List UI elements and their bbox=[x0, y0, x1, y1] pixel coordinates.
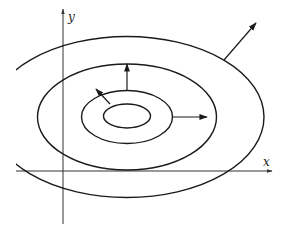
axes bbox=[16, 9, 272, 224]
contour-lines bbox=[0, 37, 264, 198]
contour-diagram: x y bbox=[0, 0, 283, 236]
x-axis-label: x bbox=[263, 155, 270, 169]
y-axis-label: y bbox=[67, 10, 75, 24]
arrow-outer-icon bbox=[224, 23, 256, 60]
contour-1 bbox=[104, 104, 151, 128]
contour-4 bbox=[0, 37, 264, 198]
contour-2 bbox=[82, 91, 173, 144]
